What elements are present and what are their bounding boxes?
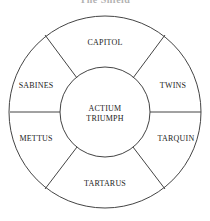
spoke-upper-right: [133, 35, 165, 78]
segment-label-tarquin: TARQUIN: [158, 134, 195, 143]
segment-label-capitol: CAPITOL: [87, 38, 122, 47]
shield-diagram: CAPITOL TWINS TARQUIN TARTARUS METTUS SA…: [0, 0, 210, 221]
segment-label-sabines: SABINES: [19, 81, 54, 90]
segment-label-tartarus: TARTARUS: [84, 179, 126, 188]
segment-label-twins: TWINS: [160, 81, 186, 90]
segment-label-mettus: METTUS: [19, 134, 52, 143]
spoke-lower-left: [45, 147, 77, 189]
spoke-upper-left: [45, 35, 77, 78]
spoke-lower-right: [133, 147, 165, 189]
center-label-line1: ACTIUM: [89, 104, 122, 113]
center-label-line2: TRIUMPH: [86, 114, 123, 123]
